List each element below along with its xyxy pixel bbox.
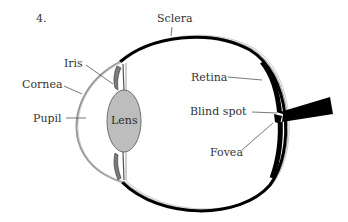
label-cornea: Cornea [22, 79, 62, 90]
label-pupil: Pupil [33, 113, 62, 124]
eye-diagram: 4. Sclera Iris Cornea Pupil Lens Retina … [0, 0, 348, 222]
label-lens: Lens [111, 115, 138, 126]
blind-spot-leader [252, 112, 277, 113]
label-retina: Retina [191, 72, 227, 83]
cornea-leader [64, 86, 82, 94]
fovea-leader [242, 123, 273, 150]
label-fovea: Fovea [210, 147, 243, 158]
sclera-leader [171, 27, 172, 36]
retina-leader [228, 77, 262, 80]
label-blind-spot: Blind spot [190, 106, 246, 117]
label-iris: Iris [64, 58, 83, 69]
eyeball-globe [120, 35, 289, 211]
eye-illustration [0, 0, 348, 222]
iris-bottom [114, 152, 126, 180]
label-sclera: Sclera [157, 13, 193, 24]
figure-number: 4. [36, 13, 47, 24]
iris-top [114, 63, 126, 92]
